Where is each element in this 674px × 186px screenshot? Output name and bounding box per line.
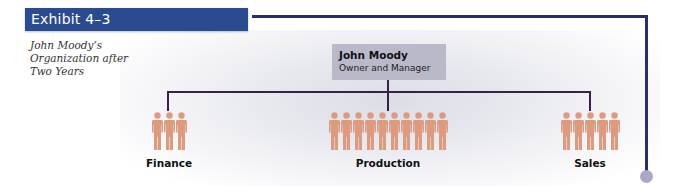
department-label: Production <box>356 157 421 169</box>
caption-line: Two Years <box>30 65 128 78</box>
caption-line: John Moody’s <box>30 39 128 52</box>
person-icon <box>413 112 424 150</box>
person-icon <box>425 112 436 150</box>
person-icon <box>609 112 620 150</box>
person-icon <box>389 112 400 150</box>
person-icon <box>597 112 608 150</box>
connector-sales <box>589 91 591 111</box>
person-icon <box>437 112 448 150</box>
person-icon <box>152 112 163 150</box>
manager-role: Owner and Manager <box>339 63 431 73</box>
production-staff <box>329 112 448 150</box>
department-label: Finance <box>146 157 192 169</box>
department-finance: Finance <box>150 112 188 169</box>
person-icon <box>353 112 364 150</box>
frame-line-right <box>645 15 648 175</box>
person-icon <box>329 112 340 150</box>
frame-end-dot <box>640 170 653 183</box>
connector-horizontal <box>167 91 591 93</box>
exhibit-label: Exhibit 4–3 <box>31 11 111 27</box>
person-icon <box>341 112 352 150</box>
frame-line-top <box>252 15 648 18</box>
department-production: Production <box>308 112 468 169</box>
person-icon <box>365 112 376 150</box>
sales-staff <box>561 112 620 150</box>
manager-node: John Moody Owner and Manager <box>332 44 446 80</box>
person-icon <box>561 112 572 150</box>
department-sales: Sales <box>559 112 621 169</box>
person-icon <box>164 112 175 150</box>
exhibit-caption: John Moody’s Organization after Two Year… <box>30 39 128 78</box>
connector-production <box>387 91 389 111</box>
person-icon <box>401 112 412 150</box>
manager-name: John Moody <box>339 49 408 61</box>
caption-line: Organization after <box>30 52 128 65</box>
person-icon <box>573 112 584 150</box>
exhibit-header-bar: Exhibit 4–3 <box>25 8 248 31</box>
person-icon <box>377 112 388 150</box>
finance-staff <box>152 112 187 150</box>
connector-finance <box>167 91 169 111</box>
person-icon <box>176 112 187 150</box>
person-icon <box>585 112 596 150</box>
department-label: Sales <box>574 157 606 169</box>
